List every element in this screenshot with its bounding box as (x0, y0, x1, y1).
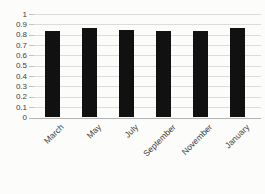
bar (230, 28, 245, 117)
gridline (33, 66, 261, 67)
y-axis-tick (29, 107, 34, 108)
x-category-label: January (223, 122, 251, 150)
gridline (33, 35, 261, 36)
gridline (33, 14, 261, 15)
bar (82, 28, 97, 117)
y-axis-tick (29, 35, 34, 36)
gridline (33, 86, 261, 87)
bar (119, 30, 134, 118)
y-tick-label: 0.2 (0, 92, 27, 101)
gridline (33, 24, 261, 25)
gridline (33, 45, 261, 46)
bar (45, 31, 60, 118)
y-axis-tick (29, 45, 34, 46)
gridline (33, 55, 261, 56)
x-axis-line (29, 118, 261, 119)
y-tick-label: 0.6 (0, 51, 27, 60)
y-axis-tick (29, 76, 34, 77)
y-tick-label: 0.1 (0, 103, 27, 112)
y-axis-tick (29, 97, 34, 98)
y-tick-label: 0.8 (0, 30, 27, 39)
y-axis-tick (29, 24, 34, 25)
y-tick-label: 0.3 (0, 82, 27, 91)
x-category-label: September (141, 122, 177, 158)
bar-chart: 00.10.20.30.40.50.60.70.80.91MarchMayJul… (0, 0, 265, 194)
y-tick-label: 0.9 (0, 20, 27, 29)
bar (156, 31, 171, 118)
x-category-label: July (123, 122, 141, 140)
gridline (33, 97, 261, 98)
gridline (33, 107, 261, 108)
gridline (33, 76, 261, 77)
y-axis-tick (29, 86, 34, 87)
bar (193, 31, 208, 118)
y-axis-tick (29, 55, 34, 56)
y-tick-label: 0.5 (0, 61, 27, 70)
y-tick-label: 1 (0, 10, 27, 19)
x-category-label: November (180, 122, 215, 157)
y-axis-tick (29, 14, 34, 15)
x-category-label: March (42, 122, 66, 146)
x-category-label: May (85, 122, 103, 140)
y-axis-tick (29, 66, 34, 67)
y-tick-label: 0.7 (0, 41, 27, 50)
y-tick-label: 0.4 (0, 72, 27, 81)
y-tick-label: 0 (0, 113, 27, 122)
